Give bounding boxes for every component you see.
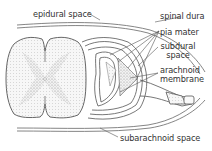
label-pia-mater: pia mater <box>160 28 199 37</box>
spinal-cord <box>6 37 86 118</box>
label-arachnoid-line2: membrane <box>160 75 204 84</box>
label-subarachnoid-space: subarachnoid space <box>120 134 200 143</box>
label-arachnoid-membrane: arachnoid membrane <box>160 66 204 84</box>
label-spinal-dura: spinal dura <box>160 12 205 21</box>
label-epidural-space: epidural space <box>33 10 92 19</box>
label-subdural-line2: space <box>160 51 196 60</box>
label-subdural-space: subdural space <box>160 42 196 60</box>
